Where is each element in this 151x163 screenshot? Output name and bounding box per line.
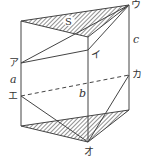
line-e-ka-dashed bbox=[21, 75, 129, 96]
line-ka-o bbox=[88, 75, 129, 142]
svg-text:S: S bbox=[65, 16, 72, 27]
label-a: a bbox=[10, 73, 17, 86]
label-ka: カ bbox=[132, 69, 142, 80]
prism-diagram: S ウ c イ ア a カ エ b オ bbox=[0, 0, 151, 163]
label-o: オ bbox=[84, 146, 94, 157]
label-b: b bbox=[79, 87, 86, 100]
label-u: ウ bbox=[131, 0, 141, 10]
label-e: エ bbox=[8, 90, 18, 101]
bottom-face-shaded bbox=[21, 110, 129, 142]
label-a-point: ア bbox=[9, 57, 19, 68]
line-a-i bbox=[21, 50, 88, 63]
label-c: c bbox=[133, 33, 139, 46]
label-i: イ bbox=[91, 49, 101, 60]
